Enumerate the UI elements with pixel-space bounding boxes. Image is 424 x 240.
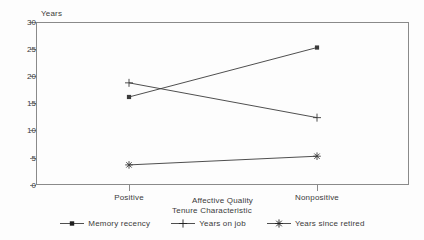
plus-marker-icon: [170, 218, 196, 229]
square-marker-icon: [59, 218, 85, 229]
x-tick-mark: [317, 185, 318, 191]
legend-item-years-on-job[interactable]: Years on job: [170, 218, 246, 229]
chart-screenshot: Years Affective Quality 30 25 20 15 10 5…: [0, 0, 424, 240]
legend-label-years-since-retired: Years since retired: [295, 219, 365, 228]
legend-label-years-on-job: Years on job: [199, 219, 246, 228]
x-axis-ticks: Positive Nonpositive: [0, 0, 424, 240]
legend-item-years-since-retired[interactable]: Years since retired: [266, 218, 365, 229]
legend-items: Memory recency Years on job Ye: [0, 218, 424, 229]
x-tick-label-nonpositive: Nonpositive: [295, 193, 339, 202]
legend-label-memory-recency: Memory recency: [88, 219, 150, 228]
legend-item-memory-recency[interactable]: Memory recency: [59, 218, 150, 229]
asterisk-marker-icon: [266, 218, 292, 229]
x-tick-label-positive: Positive: [114, 193, 144, 202]
x-tick-mark: [129, 185, 130, 191]
legend-title: Tenure Characteristic: [0, 206, 424, 215]
legend: Tenure Characteristic Memory recency Yea…: [0, 206, 424, 229]
